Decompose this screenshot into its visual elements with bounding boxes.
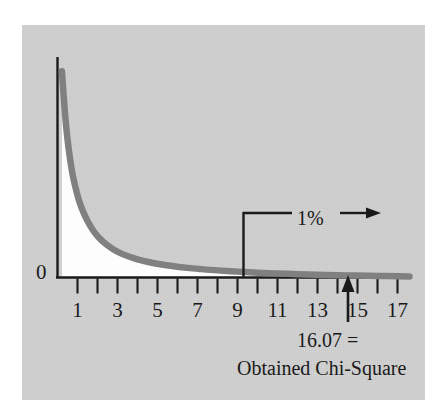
x-tick-label-17: 17 (387, 300, 409, 321)
obtained-caption-label: Obtained Chi-Square (237, 358, 406, 378)
x-tick-label-3: 3 (107, 300, 129, 321)
x-tick-label-1: 1 (67, 300, 89, 321)
x-tick-label-5: 5 (147, 300, 169, 321)
x-tick-label-11: 11 (267, 300, 289, 321)
x-tick-label-7: 7 (187, 300, 209, 321)
x-tick-label-13: 13 (307, 300, 329, 321)
obtained-value-label: 16.07 = (297, 330, 358, 350)
one-percent-arrow-head (366, 208, 381, 219)
one-percent-label: 1% (297, 208, 324, 228)
x-tick-label-9: 9 (227, 300, 249, 321)
x-tick-label-15: 15 (347, 300, 369, 321)
chi-square-density-curve (62, 71, 410, 276)
chi-square-figure: 0 1% 16.07 = Obtained Chi-Square 1357911… (0, 0, 446, 417)
y-origin-label: 0 (36, 262, 47, 283)
chi-square-plot (0, 0, 446, 417)
